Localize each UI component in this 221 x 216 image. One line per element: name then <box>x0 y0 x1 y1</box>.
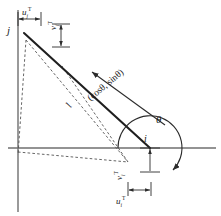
vj-subscript: j <box>54 24 60 26</box>
uj-superscript: T <box>28 6 31 12</box>
node-label-i: i <box>144 134 147 144</box>
dimension-ui <box>128 182 151 196</box>
deformed-member <box>24 33 150 148</box>
vi-base: v <box>114 176 124 180</box>
angle-label-theta: θ <box>156 114 161 125</box>
undeformed-chord-left <box>18 40 26 155</box>
dimension-label-vj: vjT <box>48 21 60 30</box>
vi-subscript: i <box>120 174 126 176</box>
figure-canvas <box>0 0 221 216</box>
ui-subscript: i <box>121 202 123 208</box>
undeformed-configuration <box>18 40 128 162</box>
dimension-label-uj: ujT <box>22 7 31 19</box>
dimension-vi <box>140 148 160 172</box>
vj-superscript: T <box>47 21 53 24</box>
axes <box>8 10 216 212</box>
dimension-label-ui: uiT <box>116 196 125 208</box>
vj-base: v <box>48 26 58 30</box>
undeformed-member <box>26 40 128 162</box>
dimension-label-vi: viT <box>114 171 126 180</box>
deformed-member-group <box>24 33 150 148</box>
uj-subscript: j <box>27 13 29 19</box>
undeformed-baseline <box>18 152 128 162</box>
node-label-j: j <box>7 25 10 36</box>
vi-superscript: T <box>113 171 119 174</box>
beam-deformation-figure: j i θ l (cosθ, sinθ) ujT vjT uiT viT <box>0 0 221 216</box>
ui-superscript: T <box>122 195 125 201</box>
